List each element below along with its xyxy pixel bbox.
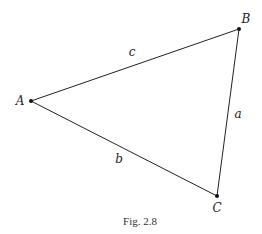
vertex-b-dot xyxy=(237,27,241,31)
figure-caption: Fig. 2.8 xyxy=(123,215,157,227)
side-b-label: b xyxy=(115,152,123,166)
vertex-a-label: A xyxy=(15,94,25,108)
vertex-b-label: B xyxy=(241,12,251,26)
vertex-c-dot xyxy=(215,194,219,198)
vertex-a-dot xyxy=(29,99,33,103)
triangle-figure: A B C c a b Fig. 2.8 xyxy=(0,0,262,234)
vertex-c-label: C xyxy=(212,201,221,215)
side-c xyxy=(31,29,239,101)
side-b xyxy=(31,101,217,196)
side-a-label: a xyxy=(234,107,241,121)
side-c-label: c xyxy=(129,45,136,59)
